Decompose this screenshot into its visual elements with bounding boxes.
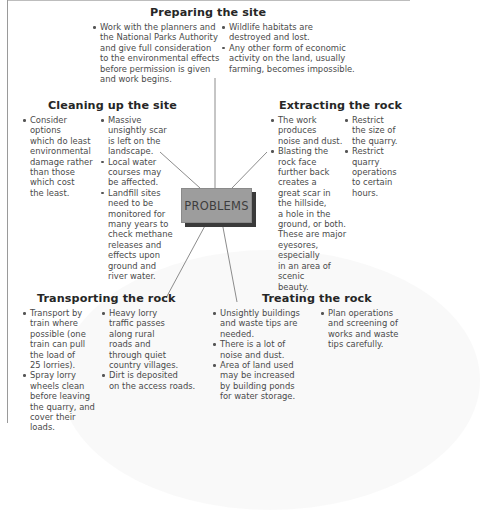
bullet-item: Restrict the size of the quarry.: [345, 115, 410, 146]
bullet-item: Work with the planners and the National …: [93, 22, 223, 84]
connector-treating: [222, 222, 237, 302]
bullet-item: Local water courses may be affected.: [101, 157, 181, 188]
cleaning-col-1: Consider options which do least environm…: [23, 115, 101, 198]
center-label: PROBLEMS: [184, 199, 248, 213]
bullet-item: Plan operations and screening of works a…: [321, 308, 410, 350]
extracting-col-1: The work produces noise and dust. Blasti…: [271, 115, 351, 292]
bullet-item: Heavy lorry traffic passes along rural r…: [102, 308, 202, 370]
extracting-col-2: Restrict the size of the quarry. Restric…: [345, 115, 410, 198]
preparing-col-2: Wildlife habitats are destroyed and lost…: [222, 22, 362, 74]
treating-col-2: Plan operations and screening of works a…: [321, 308, 410, 350]
heading-transporting: Transporting the rock: [37, 292, 176, 305]
cleaning-col-2: Massive unsightly scar is left on the la…: [101, 115, 181, 282]
bullet-item: Unsightly buildings and waste tips are n…: [213, 308, 321, 339]
heading-extracting: Extracting the rock: [279, 99, 402, 112]
heading-preparing: Preparing the site: [150, 6, 266, 19]
bullet-item: There is a lot of noise and dust.: [213, 339, 321, 360]
preparing-col-1: Work with the planners and the National …: [93, 22, 223, 84]
bullet-item: Landfill sites need to be monitored for …: [101, 188, 181, 282]
treating-col-1: Unsightly buildings and waste tips are n…: [213, 308, 321, 402]
bullet-item: Spray lorry wheels clean before leaving …: [23, 370, 103, 432]
problems-center-box: PROBLEMS: [181, 188, 252, 223]
bullet-item: Restrict quarry operations to certain ho…: [345, 146, 410, 198]
bullet-item: Blasting the rock face further back crea…: [271, 146, 351, 292]
bullet-item: The work produces noise and dust.: [271, 115, 351, 146]
heading-treating: Treating the rock: [262, 292, 372, 305]
heading-cleaning: Cleaning up the site: [48, 99, 177, 112]
transporting-col-1: Transport by train where possible (one t…: [23, 308, 103, 433]
transporting-col-2: Heavy lorry traffic passes along rural r…: [102, 308, 202, 391]
bullet-item: Wildlife habitats are destroyed and lost…: [222, 22, 362, 43]
bullet-item: Any other form of economic activity on t…: [222, 43, 362, 74]
bullet-item: Massive unsightly scar is left on the la…: [101, 115, 181, 157]
bullet-item: Dirt is deposited on the access roads.: [102, 370, 202, 391]
bullet-item: Consider options which do least environm…: [23, 115, 101, 198]
bullet-item: Area of land used may be increased by bu…: [213, 360, 321, 402]
bullet-item: Transport by train where possible (one t…: [23, 308, 103, 370]
connector-extracting: [232, 152, 267, 188]
